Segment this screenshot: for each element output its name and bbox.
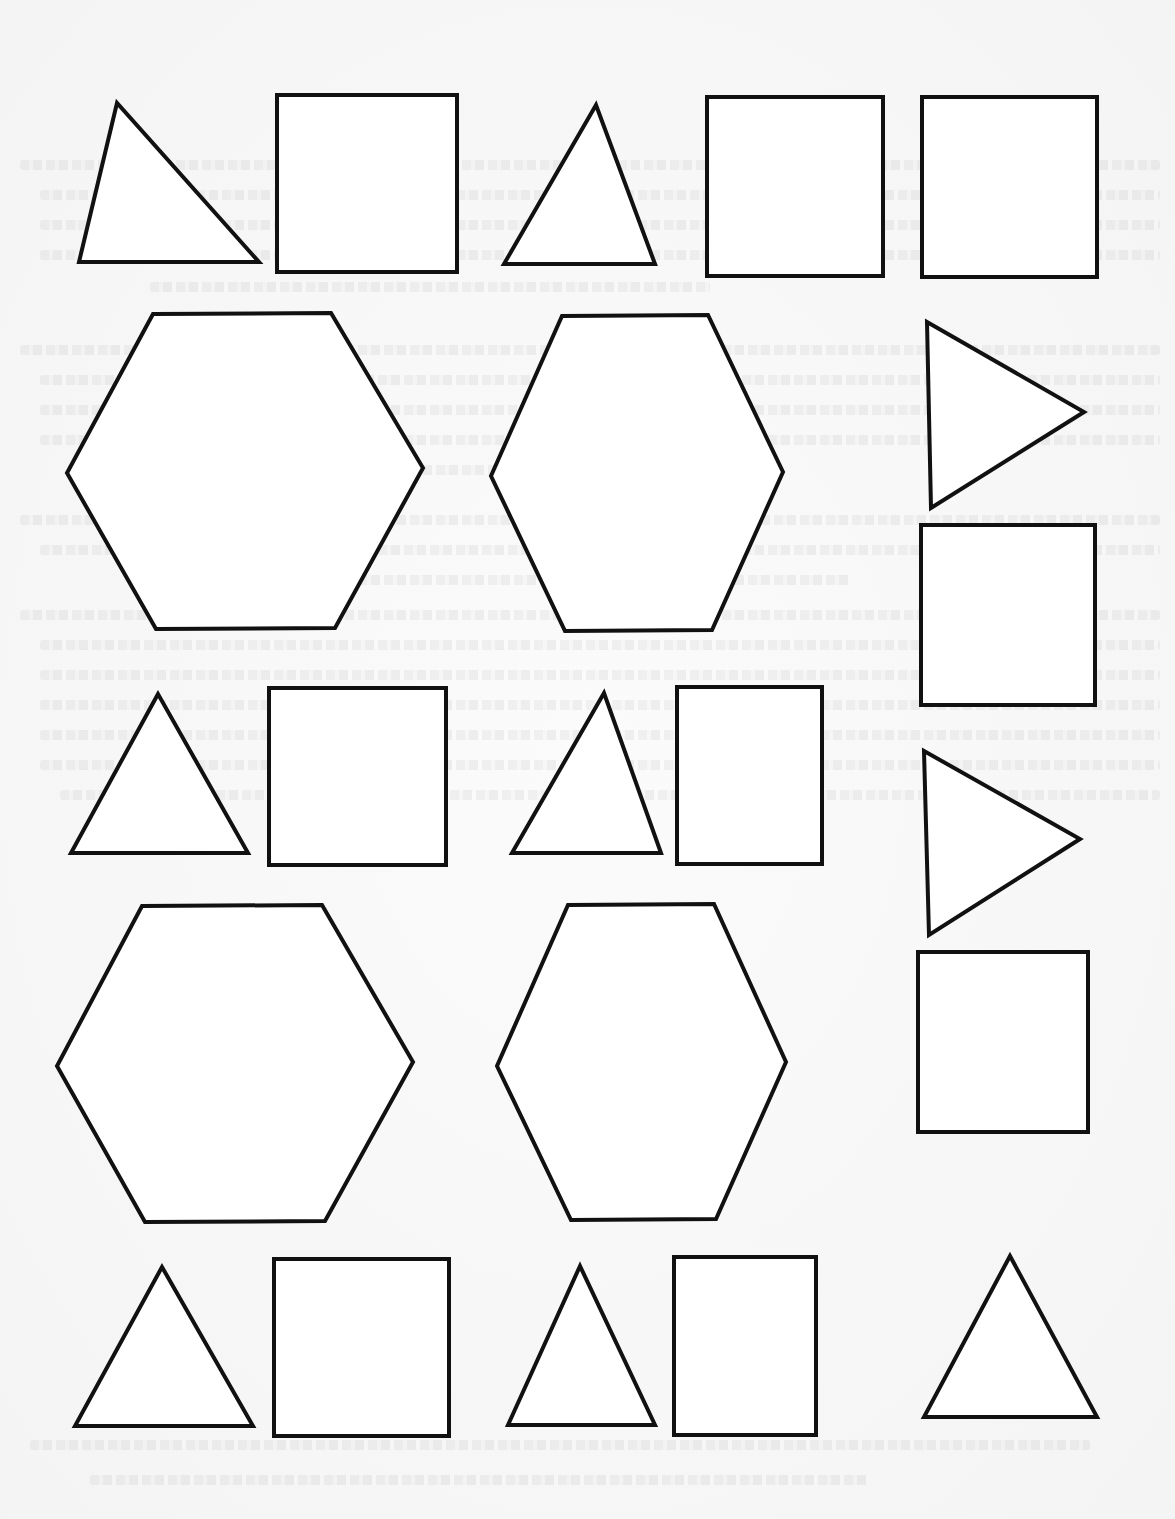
square-shape	[269, 688, 446, 865]
square-shape	[277, 95, 457, 272]
hexagon-shape	[67, 313, 423, 629]
square-shape	[922, 97, 1097, 277]
triangle-shape	[79, 103, 259, 262]
triangle-shape	[71, 694, 248, 853]
worksheet-page	[0, 0, 1175, 1519]
pattern-block-shapes	[0, 0, 1175, 1519]
square-shape	[674, 1257, 816, 1435]
triangle-shape	[508, 1266, 655, 1425]
hexagon-shape	[491, 315, 783, 631]
square-shape	[274, 1259, 449, 1436]
square-shape	[918, 952, 1088, 1132]
triangle-shape	[927, 322, 1084, 508]
triangle-shape	[75, 1267, 253, 1426]
triangle-shape	[504, 105, 655, 264]
hexagon-shape	[497, 904, 786, 1220]
hexagon-shape	[57, 905, 413, 1222]
square-shape	[677, 687, 822, 864]
triangle-shape	[924, 751, 1080, 935]
square-shape	[707, 97, 883, 276]
triangle-shape	[924, 1256, 1097, 1417]
triangle-shape	[512, 693, 661, 853]
square-shape	[921, 525, 1095, 705]
